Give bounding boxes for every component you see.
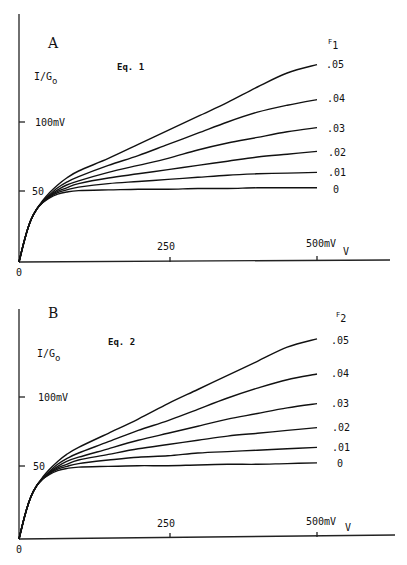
x-axis (19, 260, 390, 262)
curve-label: .04 (327, 93, 345, 104)
y-tick-label-50: 50 (32, 186, 44, 197)
curve-label: .05 (331, 335, 349, 346)
origin-label: 0 (16, 544, 22, 555)
curve-label: 0 (337, 458, 343, 469)
curve-label: 0 (333, 184, 339, 195)
curve-label: .02 (332, 422, 350, 433)
y-axis-label: I/Go (37, 348, 60, 363)
y-axis-label: I/Go (34, 71, 57, 86)
equation-label: Eq. 2 (108, 337, 135, 347)
equation-label: Eq. 1 (117, 62, 144, 72)
x-axis (19, 535, 395, 539)
panel-letter: B (48, 305, 58, 321)
x-tick-label-500: 500mV (306, 238, 336, 249)
curve-f-05 (19, 65, 317, 262)
x-tick-label-250: 250 (157, 518, 175, 529)
curve-label: .05 (326, 59, 344, 70)
legend-title: F2 (336, 311, 346, 324)
curve-label: .04 (331, 368, 349, 379)
curve-label: .01 (332, 442, 350, 453)
curve-label: .01 (328, 167, 346, 178)
panel-letter: A (47, 35, 59, 51)
curve-f-05 (19, 339, 317, 539)
y-tick-label-100: 100mV (35, 117, 65, 128)
curve-label: .03 (331, 398, 349, 409)
curve-label: .02 (328, 147, 346, 158)
x-tick-label-500: 500mV (306, 516, 336, 527)
x-axis-label: V (345, 522, 351, 533)
y-tick-label-100: 100mV (38, 392, 68, 403)
curves (19, 65, 317, 262)
panel-a: A Eq. 1 I/Go 100mV 50 0 250 500mV V F1 .… (16, 14, 390, 278)
x-axis-label: V (343, 246, 349, 257)
legend-title: F1 (328, 38, 338, 51)
figure: A Eq. 1 I/Go 100mV 50 0 250 500mV V F1 .… (0, 0, 407, 565)
origin-label: 0 (16, 267, 22, 278)
curves (19, 339, 317, 539)
curve-label: .03 (327, 123, 345, 134)
x-tick-label-250: 250 (157, 241, 175, 252)
y-tick-label-50: 50 (33, 461, 45, 472)
panel-b: B Eq. 2 I/Go 100mV 50 0 250 500mV V F2 .… (16, 305, 395, 555)
